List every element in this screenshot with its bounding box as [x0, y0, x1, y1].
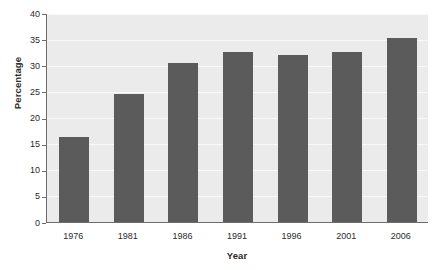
y-axis-tick-label: 15: [10, 140, 40, 149]
bar: [332, 52, 362, 222]
y-axis-tick-label-wrap: 40: [0, 10, 40, 19]
bar: [223, 52, 253, 222]
y-axis-tick-label-wrap: 20: [0, 114, 40, 123]
y-axis-tick-label: 5: [10, 192, 40, 201]
bar-chart: Percentage 0510152025303540 197619811986…: [0, 0, 446, 270]
x-axis-tick-label: 1991: [207, 231, 267, 241]
y-axis-tick-label-wrap: 10: [0, 166, 40, 175]
y-axis-tick-label-wrap: 5: [0, 192, 40, 201]
bar: [387, 38, 417, 222]
x-axis-tick-label: 1996: [262, 231, 322, 241]
bar: [168, 63, 198, 222]
y-axis-tick-label: 0: [10, 219, 40, 228]
x-axis-tick-label: 1986: [152, 231, 212, 241]
y-axis-tick-label: 40: [10, 10, 40, 19]
y-axis-tick-label: 25: [10, 88, 40, 97]
y-axis-tick-label-wrap: 25: [0, 88, 40, 97]
bar: [114, 94, 144, 222]
x-axis-tick-label: 1981: [98, 231, 158, 241]
y-axis-tick-label: 20: [10, 114, 40, 123]
bar-group: [47, 14, 428, 222]
y-axis-tick: [42, 223, 46, 224]
x-axis-tick-label: 2006: [371, 231, 431, 241]
plot-area: [46, 14, 428, 223]
y-axis-tick-label-wrap: 30: [0, 62, 40, 71]
x-axis-tick-label: 2001: [316, 231, 376, 241]
y-axis-tick-label-wrap: 35: [0, 36, 40, 45]
x-axis-title: Year: [46, 250, 428, 261]
y-axis-tick-label: 10: [10, 166, 40, 175]
y-axis-tick-label: 30: [10, 62, 40, 71]
bar: [59, 137, 89, 222]
y-axis-tick-label-wrap: 15: [0, 140, 40, 149]
x-axis-tick-label: 1976: [43, 231, 103, 241]
y-axis-tick-label: 35: [10, 36, 40, 45]
y-axis-tick-label-wrap: 0: [0, 219, 40, 228]
bar: [278, 55, 308, 222]
